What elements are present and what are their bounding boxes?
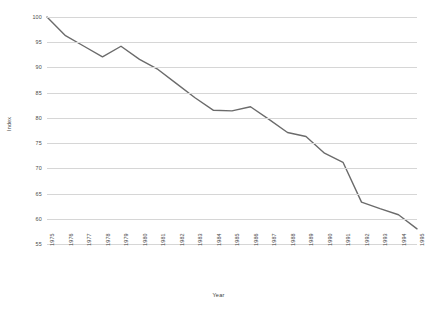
gridline-65: [47, 194, 417, 195]
x-tick-label: 1981: [160, 233, 166, 246]
gridline-75: [47, 143, 417, 144]
y-tick-label: 100: [32, 14, 42, 20]
plot-area: [47, 17, 417, 244]
y-tick-label: 90: [36, 64, 42, 70]
x-axis-title: Year: [0, 292, 437, 298]
x-tick-label: 1979: [123, 233, 129, 246]
x-tick-label: 1986: [253, 233, 259, 246]
y-tick-label: 95: [36, 39, 42, 45]
y-tick-label: 80: [36, 115, 42, 121]
y-tick-label: 60: [36, 216, 42, 222]
x-tick-label: 1992: [364, 233, 370, 246]
gridline-95: [47, 42, 417, 43]
gridline-90: [47, 67, 417, 68]
x-tick-label: 1976: [68, 233, 74, 246]
x-tick-label: 1978: [105, 233, 111, 246]
gridline-70: [47, 168, 417, 169]
gridline-100: [47, 17, 417, 18]
x-tick-label: 1984: [216, 233, 222, 246]
x-tick-label: 1989: [308, 233, 314, 246]
y-tick-label: 85: [36, 90, 42, 96]
gridline-80: [47, 118, 417, 119]
x-tick-label: 1990: [327, 233, 333, 246]
y-tick-label: 70: [36, 165, 42, 171]
x-axis-ticks: 1975197619771978197919801981198219831984…: [47, 246, 417, 286]
line-chart: Index 556065707580859095100 197519761977…: [0, 0, 437, 309]
x-tick-label: 1987: [271, 233, 277, 246]
series-line: [47, 17, 417, 229]
x-tick-label: 1977: [86, 233, 92, 246]
gridline-60: [47, 219, 417, 220]
x-tick-label: 1988: [290, 233, 296, 246]
y-tick-label: 65: [36, 191, 42, 197]
gridline-85: [47, 93, 417, 94]
x-tick-label: 1975: [49, 233, 55, 246]
x-tick-label: 1991: [345, 233, 351, 246]
series-index-line: [47, 17, 417, 244]
x-tick-label: 1993: [382, 233, 388, 246]
x-tick-label: 1980: [142, 233, 148, 246]
x-tick-label: 1983: [197, 233, 203, 246]
y-tick-label: 55: [36, 241, 42, 247]
x-tick-label: 1994: [401, 233, 407, 246]
y-axis-title: Index: [6, 117, 12, 131]
gridline-55: [47, 244, 417, 245]
x-tick-label: 1982: [179, 233, 185, 246]
x-tick-label: 1985: [234, 233, 240, 246]
y-tick-label: 75: [36, 140, 42, 146]
x-tick-label: 1995: [419, 233, 425, 246]
